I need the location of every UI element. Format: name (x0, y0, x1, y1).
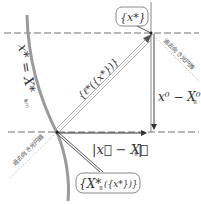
diagram-canvas: {x*} x⁰ − X⁰ 象 |x⃗ − X⃗ 象 | {X* 象 ({x*})… (0, 0, 201, 204)
lower-cone-label: 過去向き光円錐 (11, 132, 46, 167)
light-ray-dots (57, 39, 149, 131)
upper-cone-line (152, 34, 199, 81)
upper-cone-label: 過去向き光円錐 (162, 37, 197, 72)
vertical-gap-sub: 象 (193, 99, 197, 105)
curve-label: x* = X* (15, 43, 38, 94)
upper-event-point (150, 32, 153, 35)
bottom-box-text: {X* (79, 177, 101, 191)
diagonal-label: {ℓ*({x*})} (76, 56, 121, 101)
bottom-distance-close: | (138, 142, 142, 157)
worldline-curve (27, 15, 69, 201)
bottom-box-arg: ({x*})} (104, 179, 138, 189)
bottom-box-sub: 象 (99, 185, 103, 191)
top-box-pointer (137, 26, 151, 33)
light-ray-outer-b (58, 40, 151, 133)
lower-event-point (56, 131, 59, 134)
top-box-text: {x*} (120, 11, 146, 24)
light-ray-outer-a (55, 37, 148, 130)
curve-label-sub: 象(τ) (23, 98, 31, 109)
